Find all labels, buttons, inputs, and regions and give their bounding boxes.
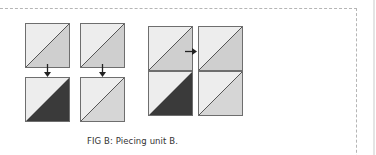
- arrow-down-icon: [43, 64, 52, 77]
- unit-right-top-block: [198, 26, 243, 71]
- figure-caption: FIG B: Piecing unit B.: [87, 136, 178, 146]
- unit-left-bottom-block: [148, 71, 193, 116]
- page-edge: [373, 0, 375, 155]
- hst-block-light-medium: [80, 23, 125, 68]
- unit-right-bottom-block: [198, 71, 243, 116]
- hst-block-light-dark: [25, 77, 70, 122]
- hst-block-light-medium: [80, 77, 125, 122]
- hst-block-light-medium: [25, 23, 70, 68]
- arrow-right-icon: [185, 48, 197, 55]
- arrow-down-icon: [98, 64, 107, 77]
